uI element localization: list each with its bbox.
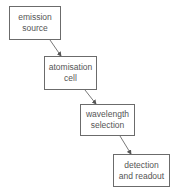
node-label-line2: cell — [64, 73, 77, 84]
node-label-line2: and readout — [119, 171, 164, 182]
node-label-line2: source — [22, 23, 48, 34]
arrow-n2-n3 — [85, 90, 96, 104]
node-label-line1: detection — [124, 160, 159, 171]
node-label-line2: selection — [91, 120, 125, 131]
node-atomisation-cell: atomisation cell — [44, 56, 97, 90]
node-wavelength-selection: wavelength selection — [80, 104, 135, 136]
node-emission-source: emission source — [9, 6, 61, 40]
node-detection-readout: detection and readout — [113, 154, 170, 187]
arrow-n3-n4 — [120, 136, 131, 154]
node-label-line1: atomisation — [49, 62, 92, 73]
node-label-line1: emission — [18, 12, 52, 23]
node-label-line1: wavelength — [86, 109, 129, 120]
arrow-n1-n2 — [50, 40, 61, 56]
